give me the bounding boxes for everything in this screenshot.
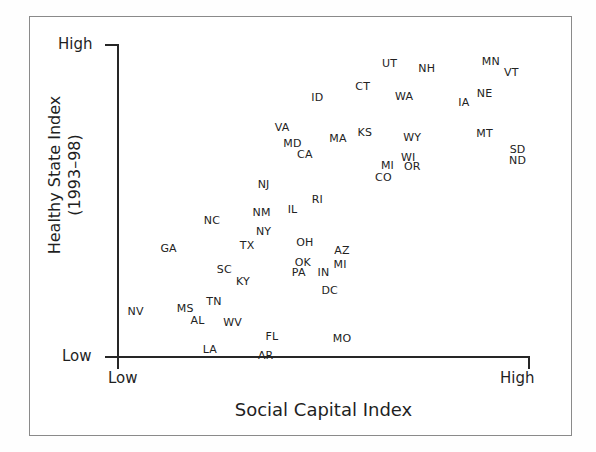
scatter-point-label: LA xyxy=(203,342,217,355)
scatter-point-label: VA xyxy=(275,121,290,134)
scatter-point-label: MI xyxy=(333,257,346,270)
x-axis-low-label: Low xyxy=(108,369,138,387)
x-axis-title: Social Capital Index xyxy=(117,399,530,420)
scatter-point-label: WY xyxy=(403,130,421,143)
scatter-point-label: RI xyxy=(312,193,323,206)
y-axis-title-line2: (1993–98) xyxy=(65,65,85,285)
scatter-point-label: CA xyxy=(297,147,313,160)
scatter-point-label: NH xyxy=(418,61,435,74)
scatter-point-label: SC xyxy=(217,262,232,275)
scatter-point-label: AZ xyxy=(334,243,349,256)
scatter-point-label: MO xyxy=(333,331,352,344)
scatter-point-label: NJ xyxy=(258,177,270,190)
scatter-point-label: IA xyxy=(458,96,469,109)
scatter-point-label: UT xyxy=(382,56,397,69)
scatter-point-label: TN xyxy=(206,295,221,308)
scatter-point-label: ID xyxy=(311,91,323,104)
scatter-plot-area: UTNHMNVTCTIDWAIANEVAKSWYMTMAMDCAWIMIORSD… xyxy=(117,44,530,358)
scatter-point-label: GA xyxy=(160,242,176,255)
scatter-point-label: NM xyxy=(252,205,270,218)
scatter-point-label: NY xyxy=(256,224,271,237)
scatter-point-label: PA xyxy=(292,265,306,278)
scatter-point-label: MI xyxy=(381,158,394,171)
scatter-point-label: CT xyxy=(355,80,370,93)
scatter-point-label: NE xyxy=(477,86,493,99)
scatter-point-label: IN xyxy=(318,265,330,278)
scatter-point-label: VT xyxy=(504,66,519,79)
scatter-point-label: OH xyxy=(296,235,313,248)
figure-root: High Low Low High Social Capital Index H… xyxy=(0,0,596,452)
scatter-point-label: AL xyxy=(191,314,205,327)
scatter-point-label: MS xyxy=(177,301,194,314)
scatter-point-label: AR xyxy=(258,348,274,361)
scatter-point-label: MN xyxy=(482,55,500,68)
x-axis-high-label: High xyxy=(500,369,534,387)
y-axis-title-line1: Healthy State Index xyxy=(45,96,64,255)
y-axis-high-label: High xyxy=(58,35,92,53)
scatter-point-label: NV xyxy=(128,304,144,317)
scatter-point-label: FL xyxy=(265,330,278,343)
scatter-point-label: OR xyxy=(404,160,421,173)
scatter-point-label: ND xyxy=(509,154,526,167)
scatter-point-label: TX xyxy=(240,238,255,251)
y-axis-title: Healthy State Index (1993–98) xyxy=(45,65,85,285)
scatter-point-label: CO xyxy=(375,171,392,184)
scatter-point-label: KY xyxy=(236,275,250,288)
scatter-point-label: WV xyxy=(223,315,242,328)
scatter-point-label: DC xyxy=(321,284,338,297)
scatter-point-label: NC xyxy=(204,213,220,226)
scatter-point-label: MA xyxy=(329,132,346,145)
scatter-point-label: MT xyxy=(476,127,493,140)
scatter-point-label: KS xyxy=(357,125,372,138)
scatter-point-label: IL xyxy=(288,202,298,215)
scatter-point-label: WA xyxy=(395,89,413,102)
y-axis-low-label: Low xyxy=(62,347,92,365)
